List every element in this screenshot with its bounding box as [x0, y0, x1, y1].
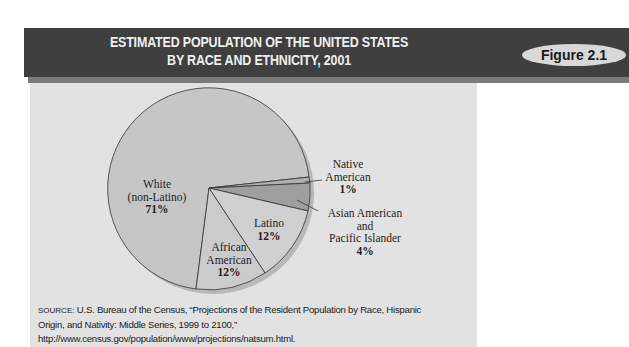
label-latino-pct: 12% — [258, 230, 281, 242]
label-asian-line3: Pacific Islander — [315, 232, 415, 245]
label-latino-line1: Latino — [244, 217, 294, 230]
label-white-line2: (non-Latino) — [117, 191, 197, 204]
source-note: SOURCE: U.S. Bureau of the Census, “Proj… — [38, 303, 478, 346]
label-white-pct: 71% — [146, 203, 169, 215]
label-native: Native American 1% — [318, 158, 378, 196]
label-asian-line1: Asian American — [315, 207, 415, 220]
source-url: http://www.census.gov/population/www/pro… — [38, 332, 478, 346]
label-white-line1: White — [117, 178, 197, 191]
source-line-2: Origin, and Nativity: Middle Series, 199… — [38, 318, 478, 332]
label-african-line2: American — [199, 254, 259, 267]
pie-chart — [0, 0, 629, 347]
label-asian: Asian American and Pacific Islander 4% — [315, 207, 415, 257]
label-latino: Latino 12% — [244, 217, 294, 242]
label-asian-pct: 4% — [356, 245, 373, 257]
label-african-line1: African — [199, 241, 259, 254]
source-line-1: U.S. Bureau of the Census, “Projections … — [74, 304, 421, 315]
label-native-line1: Native — [318, 158, 378, 171]
source-prefix: SOURCE: — [38, 306, 74, 315]
label-african-pct: 12% — [218, 266, 241, 278]
label-african: African American 12% — [199, 241, 259, 279]
label-native-pct: 1% — [339, 183, 356, 195]
label-native-line2: American — [318, 171, 378, 184]
label-asian-line2: and — [315, 220, 415, 233]
label-white: White (non-Latino) 71% — [117, 178, 197, 216]
